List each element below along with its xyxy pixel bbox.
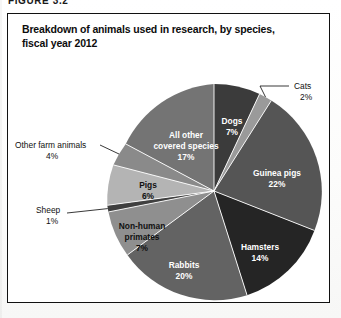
slice-value-pigs: 6% (142, 191, 155, 201)
pie-chart: Dogs 7% Guinea pigs 22% Hamsters 14% Rab… (8, 14, 329, 302)
slice-value-hamsters: 14% (252, 253, 269, 263)
slice-value-non-human-primates: 7% (136, 243, 149, 253)
slice-label-rabbits: Rabbits (169, 260, 200, 270)
source-note (40, 311, 300, 318)
slice-value-guinea-pigs: 22% (269, 179, 286, 189)
slice-label-non-human-primates-line-2: primates (125, 232, 160, 242)
figure-screenshot: FIGURE 3.2 Breakdown of animals used in … (0, 0, 341, 318)
slice-label-hamsters: Hamsters (241, 242, 280, 252)
callout-value-sheep: 1% (46, 216, 59, 226)
slice-label-dogs: Dogs (222, 116, 243, 126)
callout-value-cats: 2% (300, 92, 313, 102)
pie-chart-svg: Dogs 7% Guinea pigs 22% Hamsters 14% Rab… (8, 14, 329, 302)
slice-value-all-other: 17% (178, 152, 195, 162)
callout-label-sheep: Sheep (36, 205, 61, 215)
slice-label-all-other-line-2: covered species (153, 141, 219, 151)
leader-line-cats (260, 86, 289, 97)
slice-value-rabbits: 20% (176, 271, 193, 281)
figure-box: Breakdown of animals used in research, b… (7, 13, 330, 303)
slice-label-all-other-line-1: All other (169, 130, 204, 140)
slice-label-pigs: Pigs (139, 180, 157, 190)
callout-label-other-farm-animals: Other farm animals (15, 140, 86, 150)
slice-label-non-human-primates-line-1: Non-human (119, 221, 166, 231)
leader-line-other-farm-animals (100, 145, 119, 154)
slice-value-dogs: 7% (226, 127, 239, 137)
leader-line-sheep (67, 209, 108, 213)
callout-label-cats: Cats (294, 81, 311, 91)
slice-label-guinea-pigs: Guinea pigs (253, 168, 301, 178)
figure-number-label: FIGURE 3.2 (8, 0, 68, 7)
callout-value-other-farm-animals: 4% (46, 151, 59, 161)
